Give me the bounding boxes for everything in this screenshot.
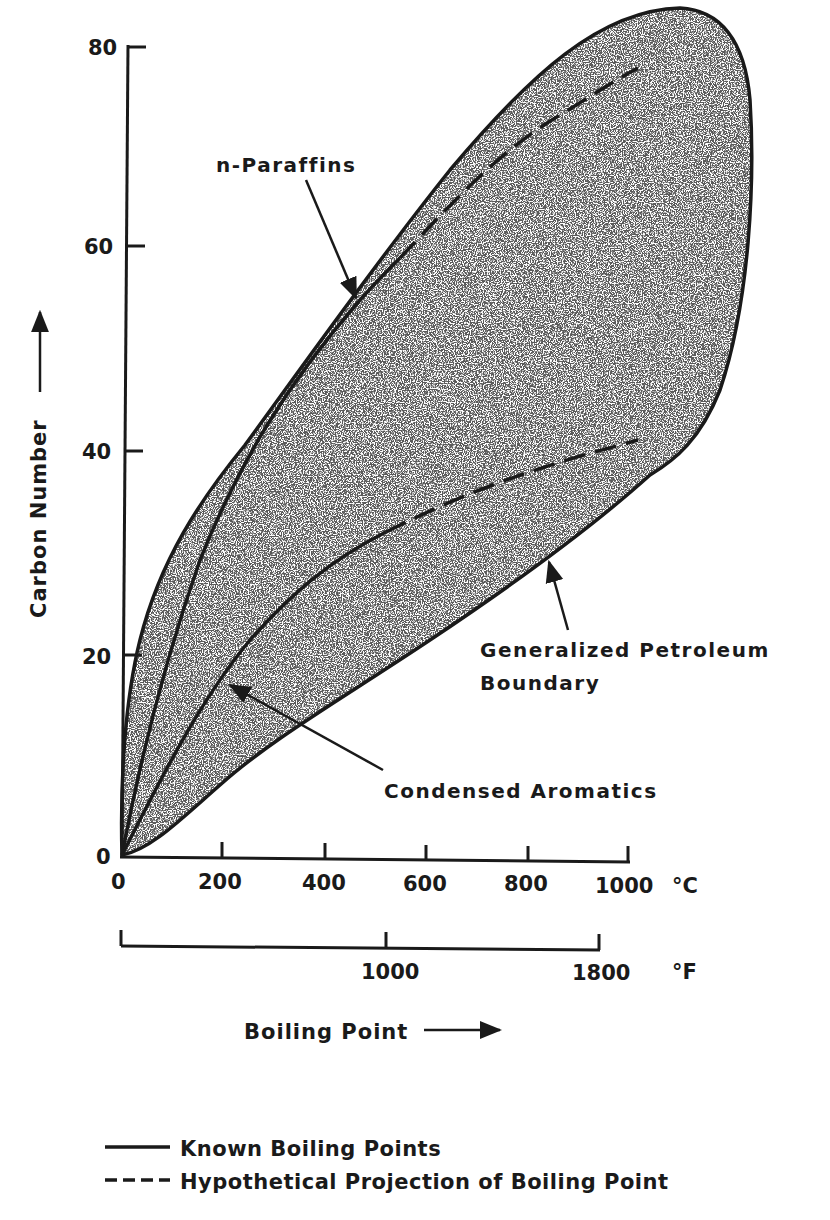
- legend-solid-label: Known Boiling Points: [180, 1137, 441, 1161]
- chart-canvas: 80 60 40 20 0 Carbon Number 0 200 400 60…: [0, 0, 830, 1220]
- x-axis-fahrenheit: 1000 1800 °F: [121, 930, 697, 985]
- y-tick-label-20: 20: [82, 645, 111, 669]
- x-unit-celsius: °C: [672, 874, 698, 898]
- y-tick-label-40: 40: [82, 440, 111, 464]
- annotation-boundary-line2: Boundary: [480, 671, 600, 695]
- x-tick-label-200: 200: [198, 870, 242, 894]
- y-tick-label-60: 60: [84, 235, 113, 259]
- annotation-n-paraffins: n-Paraffins: [216, 153, 356, 177]
- annotation-boundary-line1: Generalized Petroleum: [480, 638, 770, 662]
- x-axis-title-group: Boiling Point: [244, 1020, 500, 1044]
- f-tick-label-1800: 1800: [572, 961, 630, 985]
- x-unit-fahrenheit: °F: [672, 960, 697, 984]
- x-axis-celsius: 0 200 400 600 800 1000 °C: [111, 842, 698, 898]
- legend: Known Boiling Points Hypothetical Projec…: [105, 1137, 669, 1194]
- f-tick-label-1000: 1000: [361, 960, 419, 984]
- x-tick-label-800: 800: [504, 872, 548, 896]
- f-axis-line: [121, 946, 600, 950]
- annotation-n-paraffins-arrow: [306, 180, 356, 298]
- x-tick-label-600: 600: [403, 872, 447, 896]
- y-tick-label-0: 0: [96, 845, 111, 869]
- x-tick-label-400: 400: [302, 871, 346, 895]
- x-tick-label-0: 0: [111, 870, 126, 894]
- envelope-stipple: [122, 8, 752, 855]
- x-axis-title: Boiling Point: [244, 1020, 408, 1044]
- annotation-boundary-arrow: [549, 562, 568, 630]
- x-tick-label-1000: 1000: [595, 874, 653, 898]
- legend-dashed-label: Hypothetical Projection of Boiling Point: [180, 1170, 669, 1194]
- annotation-condensed-aromatics: Condensed Aromatics: [384, 779, 658, 803]
- petroleum-envelope: [122, 8, 752, 855]
- y-tick-label-80: 80: [88, 36, 117, 60]
- y-axis-title: Carbon Number: [27, 419, 51, 618]
- x-axis-line: [120, 857, 630, 862]
